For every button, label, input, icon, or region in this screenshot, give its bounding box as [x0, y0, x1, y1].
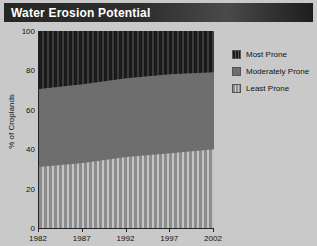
light-striped-swatch-icon	[232, 84, 241, 93]
chart-legend: Most Prone Moderately Prone Least Prone	[232, 50, 309, 101]
legend-item-most-prone: Most Prone	[232, 50, 309, 59]
y-tick-label-80: 80	[6, 66, 35, 75]
x-axis-ticks: 19821987199219972002	[38, 229, 214, 245]
plot-area	[38, 31, 214, 229]
x-tick-mark-1987	[82, 229, 83, 232]
x-tick-label-1992: 1992	[117, 234, 135, 243]
dark-striped-swatch-icon	[232, 50, 241, 59]
legend-label-moderately-prone: Moderately Prone	[246, 67, 309, 76]
legend-item-least-prone: Least Prone	[232, 84, 309, 93]
y-tick-label-100: 100	[6, 27, 35, 36]
y-axis-label: % of Croplands	[7, 94, 16, 149]
legend-label-most-prone: Most Prone	[246, 50, 287, 59]
y-tick-label-0: 0	[6, 224, 35, 233]
legend-item-moderately-prone: Moderately Prone	[232, 67, 309, 76]
legend-label-least-prone: Least Prone	[246, 84, 289, 93]
chart-title-bar: Water Erosion Potential	[4, 3, 313, 22]
x-tick-label-1997: 1997	[160, 234, 178, 243]
x-tick-label-1982: 1982	[29, 234, 47, 243]
x-tick-mark-1982	[38, 229, 39, 232]
x-tick-mark-1997	[169, 229, 170, 232]
y-tick-label-20: 20	[6, 185, 35, 194]
x-tick-label-1987: 1987	[73, 234, 91, 243]
chart-container: 100806040200 % of Croplands 198219871992…	[0, 22, 317, 246]
gray-solid-swatch-icon	[232, 67, 241, 76]
x-tick-mark-1992	[126, 229, 127, 232]
x-tick-mark-2002	[213, 229, 214, 232]
x-tick-label-2002: 2002	[204, 234, 222, 243]
page-title: Water Erosion Potential	[4, 6, 151, 20]
